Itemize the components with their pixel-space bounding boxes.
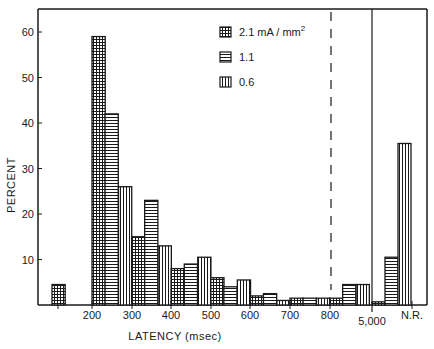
bar-2-1 <box>290 298 303 305</box>
legend-label: 2.1 mA / mm2 <box>239 24 306 38</box>
bar-1-1 <box>145 200 158 305</box>
x-axis-title: LATENCY (msec) <box>128 330 221 342</box>
y-axis-title: PERCENT <box>5 157 17 213</box>
bar-0-6 <box>277 300 290 305</box>
y-tick-label: 40 <box>22 117 34 129</box>
bar-1-1 <box>184 264 197 305</box>
bar-0-6 <box>398 143 411 305</box>
bar-0-6 <box>158 246 171 305</box>
bar-1-1 <box>224 287 237 305</box>
bar-1-1 <box>385 257 398 305</box>
y-tick-label: 30 <box>22 163 34 175</box>
bar-2-1 <box>132 237 145 305</box>
bar-1-1 <box>105 114 118 305</box>
x-tick-label: 5,000 <box>358 315 386 327</box>
y-tick-label: 20 <box>22 208 34 220</box>
bar-2-1 <box>250 296 263 305</box>
x-tick-label: 600 <box>241 309 259 321</box>
legend-swatch-grid <box>220 27 231 37</box>
bar-2-1 <box>92 37 105 305</box>
legend-swatch-horizontal <box>220 52 231 62</box>
x-tick-label: N.R. <box>401 309 423 321</box>
bar-1-1 <box>303 298 316 305</box>
legend-swatch-vertical <box>220 77 231 87</box>
legend: 2.1 mA / mm21.10.6 <box>220 24 306 88</box>
bar-0-6 <box>119 187 132 305</box>
latency-histogram: 102030405060 2003004005006007008005,000N… <box>0 0 434 349</box>
x-tick-label: 500 <box>202 309 220 321</box>
y-axis: 102030405060 <box>22 26 42 266</box>
bar-1-1 <box>343 285 356 305</box>
bar-2-1 <box>171 269 184 305</box>
x-tick-label: 300 <box>123 309 141 321</box>
y-tick-label: 10 <box>22 254 34 266</box>
x-tick-label: 700 <box>281 309 299 321</box>
x-tick-label: 800 <box>321 309 339 321</box>
bar-0-6 <box>317 298 330 305</box>
bar-2-1 <box>372 302 385 305</box>
bar-2-1 <box>211 278 224 305</box>
x-tick-label: 200 <box>83 309 101 321</box>
bar-2-1 <box>330 298 343 305</box>
legend-label: 1.1 <box>239 51 254 63</box>
bar-0-6 <box>237 280 250 305</box>
bar-0-6 <box>356 285 369 305</box>
bar-1-1 <box>263 294 276 305</box>
y-tick-label: 60 <box>22 26 34 38</box>
legend-label: 0.6 <box>239 76 254 88</box>
y-tick-label: 50 <box>22 72 34 84</box>
x-tick-label: 400 <box>162 309 180 321</box>
bar-2-1 <box>52 285 65 305</box>
bar-0-6 <box>198 257 211 305</box>
